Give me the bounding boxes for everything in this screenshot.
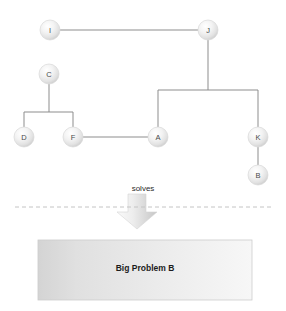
node-j[interactable]: J xyxy=(198,20,218,40)
node-circle[interactable] xyxy=(14,127,34,147)
node-k[interactable]: K xyxy=(248,127,268,147)
down-arrow-icon xyxy=(117,194,157,229)
node-i[interactable]: I xyxy=(40,20,60,40)
problem-box-label: Big Problem B xyxy=(116,263,175,273)
node-circle[interactable] xyxy=(63,127,83,147)
node-circle[interactable] xyxy=(198,20,218,40)
graph-svg: I J C D F A K xyxy=(0,0,286,311)
problem-box[interactable]: Big Problem B xyxy=(38,240,252,300)
node-d[interactable]: D xyxy=(14,127,34,147)
node-f[interactable]: F xyxy=(63,127,83,147)
nodes-layer: I J C D F A K xyxy=(14,20,268,185)
edges-layer xyxy=(24,30,258,165)
node-circle[interactable] xyxy=(248,127,268,147)
node-circle[interactable] xyxy=(148,127,168,147)
node-circle[interactable] xyxy=(40,20,60,40)
node-circle[interactable] xyxy=(248,165,268,185)
node-b[interactable]: B xyxy=(248,165,268,185)
node-c[interactable]: C xyxy=(39,64,59,84)
node-a[interactable]: A xyxy=(148,127,168,147)
node-circle[interactable] xyxy=(39,64,59,84)
diagram-canvas: I J C D F A K xyxy=(0,0,286,311)
solves-label: solves xyxy=(132,184,155,193)
